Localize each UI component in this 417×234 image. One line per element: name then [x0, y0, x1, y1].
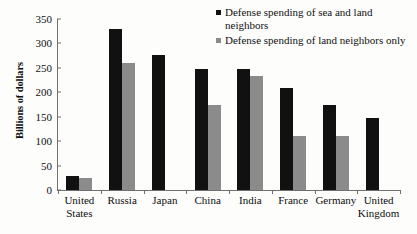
x-axis-label-line: States	[58, 207, 101, 220]
bar	[323, 105, 336, 190]
x-tick-mark	[400, 190, 401, 194]
x-axis-label-line: France	[272, 194, 315, 207]
x-axis-label-line: India	[229, 194, 272, 207]
x-axis-label-line: Kingdom	[357, 207, 400, 220]
legend-item[interactable]: Defense spending of land neighbors only	[216, 34, 414, 47]
legend-swatch-icon	[216, 38, 221, 43]
y-tick-label: 350	[36, 13, 58, 25]
x-axis-label: Japan	[144, 194, 187, 219]
bar-group	[144, 19, 187, 190]
bar	[66, 176, 79, 190]
y-tick-label: 250	[36, 62, 58, 74]
bar	[195, 69, 208, 190]
x-axis-labels: UnitedStatesRussiaJapanChinaIndiaFranceG…	[58, 194, 400, 219]
legend-label: Defense spending of sea and land neighbo…	[225, 6, 414, 31]
x-axis-label: France	[272, 194, 315, 219]
y-tick-label: 200	[36, 86, 58, 98]
legend-swatch-icon	[216, 10, 221, 15]
bar	[208, 105, 221, 190]
y-tick-label: 150	[36, 111, 58, 123]
y-tick-label: 50	[41, 160, 57, 172]
bar	[336, 136, 349, 190]
y-tick-label: 100	[36, 135, 58, 147]
bar	[250, 76, 263, 190]
x-axis-label: UnitedStates	[58, 194, 101, 219]
x-axis-label: Germany	[315, 194, 358, 219]
chart-legend: Defense spending of sea and land neighbo…	[216, 6, 414, 50]
bar-chart: Billions of dollars 35030025020015010050…	[0, 0, 417, 234]
x-axis-label-line: United	[357, 194, 400, 207]
x-axis-label: India	[229, 194, 272, 219]
bar	[237, 69, 250, 190]
x-axis-label: UnitedKingdom	[357, 194, 400, 219]
y-tick-label: 300	[36, 37, 58, 49]
x-axis-label-line: China	[186, 194, 229, 207]
bar	[122, 63, 135, 190]
x-axis-label-line: Germany	[315, 194, 358, 207]
bar-group	[58, 19, 101, 190]
y-axis-title: Billions of dollars	[14, 41, 25, 161]
x-axis-label: China	[186, 194, 229, 219]
bar	[366, 118, 379, 190]
bar	[293, 136, 306, 190]
x-axis-label-line: United	[58, 194, 101, 207]
x-axis-label-line: Japan	[144, 194, 187, 207]
x-axis-label: Russia	[101, 194, 144, 219]
x-axis-label-line: Russia	[101, 194, 144, 207]
bar	[280, 88, 293, 190]
bar	[79, 178, 92, 190]
y-tick-label: 0	[47, 184, 58, 196]
bar	[152, 55, 165, 190]
bar	[109, 29, 122, 190]
bar-group	[101, 19, 144, 190]
legend-item[interactable]: Defense spending of sea and land neighbo…	[216, 6, 414, 31]
legend-label: Defense spending of land neighbors only	[225, 34, 406, 47]
